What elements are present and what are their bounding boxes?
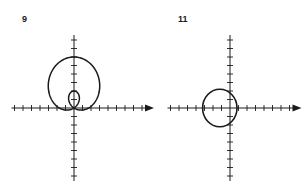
graphs-canvas [0, 0, 308, 193]
x-axis-arrow-icon [293, 105, 302, 112]
x-axis-arrow-icon [145, 105, 154, 112]
